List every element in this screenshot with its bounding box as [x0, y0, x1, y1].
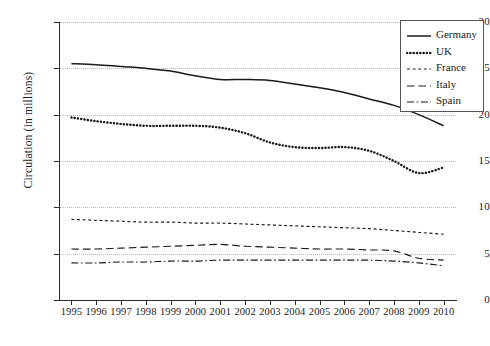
series-line-spain [71, 260, 443, 266]
legend-item-italy[interactable]: Italy [406, 76, 479, 93]
legend-label: France [436, 61, 466, 73]
legend-swatch-icon [406, 78, 432, 90]
legend-label: Germany [436, 28, 477, 40]
legend-swatch-icon [406, 61, 432, 73]
legend-item-france[interactable]: France [406, 59, 479, 76]
legend-label: UK [436, 45, 452, 57]
series-line-germany [71, 64, 443, 126]
line-chart: Circulation (in millions) 051015202530 1… [0, 0, 490, 346]
legend-swatch-icon [406, 94, 432, 106]
legend-label: Italy [436, 78, 456, 90]
legend-swatch-icon [406, 28, 432, 40]
legend-item-spain[interactable]: Spain [406, 92, 479, 109]
legend-label: Spain [436, 94, 461, 106]
legend-swatch-icon [406, 45, 432, 57]
series-line-italy [71, 244, 443, 260]
legend-item-germany[interactable]: Germany [406, 26, 479, 43]
legend-item-uk[interactable]: UK [406, 43, 479, 60]
series-line-uk [71, 117, 443, 173]
legend: GermanyUKFranceItalySpain [400, 20, 484, 112]
series-line-france [71, 219, 443, 234]
